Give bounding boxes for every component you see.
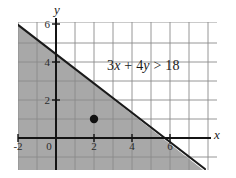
data-point-marker: [90, 115, 98, 123]
x-axis-label: x: [214, 128, 220, 141]
x-tick-label-0: 0: [42, 141, 56, 152]
x-tick-label-6: 6: [163, 141, 177, 152]
inequality-graph-figure: x y -2 0 2 4 6 2 4 6 3x + 4y > 18: [0, 0, 236, 178]
y-tick-label-6: 6: [36, 19, 50, 30]
y-tick-label-2: 2: [36, 95, 50, 106]
x-tick-label-neg2: -2: [11, 141, 25, 152]
inequality-right-side: 18: [165, 58, 179, 73]
inequality-annotation: 3x + 4y > 18: [107, 58, 180, 74]
inequality-plus-sign: +: [121, 58, 137, 73]
y-axis-label: y: [54, 3, 60, 16]
inequality-relation-sign: >: [150, 58, 166, 73]
x-tick-label-2: 2: [87, 141, 101, 152]
y-tick-label-4: 4: [36, 57, 50, 68]
x-tick-label-4: 4: [125, 141, 139, 152]
